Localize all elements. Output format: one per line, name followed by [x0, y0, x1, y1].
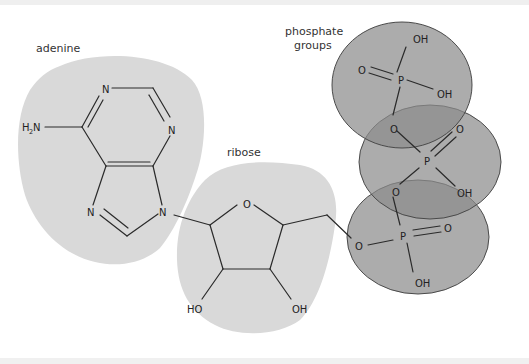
atom-p3-o-double: O — [444, 223, 452, 234]
atom-p3-oh: OH — [415, 278, 430, 289]
atom-amine-n: N — [33, 122, 40, 133]
atom-p1-o-double: O — [358, 65, 366, 76]
atom-p2-o-double: O — [456, 124, 464, 135]
atom-ring-o: O — [243, 199, 251, 210]
atom-p2-o-bridge: O — [390, 124, 398, 135]
atom-oh-right: OH — [292, 304, 307, 315]
atom-p3-o-bridge: O — [392, 187, 400, 198]
phosphate-label-line2: groups — [294, 39, 332, 52]
atom-p1-p: P — [398, 75, 404, 86]
atom-ho-left: HO — [187, 304, 203, 315]
atom-n7: N — [87, 207, 94, 218]
atom-n1: N — [102, 84, 109, 95]
atom-p1-oh-top: OH — [413, 34, 428, 45]
ribose-label: ribose — [227, 146, 261, 159]
atom-p3-o-ester: O — [355, 241, 363, 252]
adenine-label: adenine — [36, 42, 80, 55]
atom-n3: N — [168, 125, 175, 136]
nucleotide-diagram: adenine ribose phosphate groups H 2 N N … — [0, 0, 529, 364]
atom-p2-p: P — [424, 156, 430, 167]
atom-n9: N — [159, 207, 166, 218]
atom-p1-oh-right: OH — [437, 89, 452, 100]
atom-p2-oh: OH — [457, 188, 472, 199]
adenine-region — [18, 56, 204, 264]
phosphate-label-line1: phosphate — [285, 25, 343, 38]
atom-p3-p: P — [400, 231, 406, 242]
